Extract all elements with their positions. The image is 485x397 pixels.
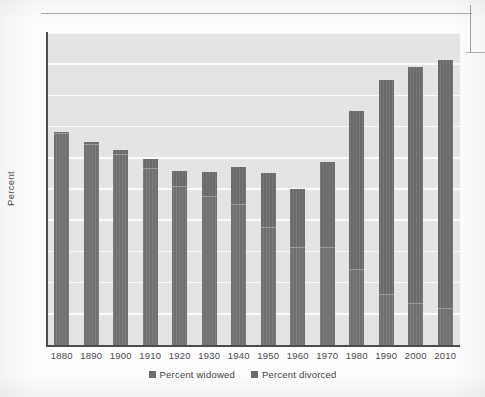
- legend-label: Percent widowed: [160, 369, 235, 380]
- bar-segment-widowed: [438, 309, 453, 345]
- gridline: [47, 251, 460, 253]
- legend-label: Percent divorced: [262, 369, 337, 380]
- bar-group: [290, 33, 305, 345]
- bar-group: [349, 33, 364, 345]
- bar-segment-divorced: [172, 171, 187, 187]
- bar-segment-divorced: [349, 111, 364, 270]
- bar-segment-widowed: [172, 187, 187, 345]
- bar-segment-divorced: [408, 67, 423, 304]
- bar-segment-widowed: [379, 295, 394, 345]
- stacked-bar-chart: Percent 02468101214161820 18801890190019…: [0, 0, 485, 397]
- bar-segment-widowed: [54, 134, 69, 345]
- bar-segment-divorced: [290, 189, 305, 248]
- bar-segment-divider: [349, 269, 364, 270]
- x-tick-label: 1900: [110, 350, 132, 361]
- bar-group: [84, 33, 99, 345]
- y-axis-tick-labels: 02468101214161820: [0, 0, 42, 397]
- gridline: [47, 313, 460, 315]
- bar-segment-divider: [143, 168, 158, 169]
- chart-legend: Percent widowedPercent divorced: [0, 369, 485, 380]
- bar-group: [231, 33, 246, 345]
- gridline: [47, 157, 460, 159]
- x-tick-label: 1920: [169, 350, 191, 361]
- bar-segment-widowed: [202, 197, 217, 345]
- bar-group: [320, 33, 335, 345]
- bar-group: [172, 33, 187, 345]
- bar-segment-divider: [172, 186, 187, 187]
- x-tick-label: 1940: [228, 350, 250, 361]
- gridline: [47, 126, 460, 128]
- legend-swatch-icon: [251, 371, 258, 378]
- x-tick-label: 1980: [346, 350, 368, 361]
- legend-swatch-icon: [149, 371, 156, 378]
- bar-segment-widowed: [113, 155, 128, 345]
- bar-group: [261, 33, 276, 345]
- bar-segment-divorced: [202, 172, 217, 197]
- bar-segment-divider: [84, 144, 99, 145]
- plot-area: [47, 33, 460, 345]
- gridline: [47, 188, 460, 190]
- bar-segment-divorced: [438, 60, 453, 310]
- bar-segment-divorced: [320, 162, 335, 248]
- x-tick-label: 1910: [139, 350, 161, 361]
- bar-segment-widowed: [290, 248, 305, 345]
- bar-segment-divider: [320, 247, 335, 248]
- x-axis-line: [46, 345, 460, 347]
- bar-segment-divider: [290, 247, 305, 248]
- bar-segment-widowed: [349, 270, 364, 345]
- x-axis-tick-labels: 1880189019001910192019301940195019601970…: [47, 350, 460, 366]
- bar-segment-widowed: [231, 205, 246, 345]
- bar-segment-divorced: [261, 173, 276, 228]
- gridline: [47, 95, 460, 97]
- bar-segment-widowed: [408, 304, 423, 345]
- x-tick-label: 1990: [375, 350, 397, 361]
- gridline: [47, 282, 460, 284]
- legend-item: Percent widowed: [149, 369, 235, 380]
- bar-segment-widowed: [143, 169, 158, 345]
- bar-segment-divider: [379, 294, 394, 295]
- bar-segment-widowed: [261, 228, 276, 345]
- bar-segment-divider: [231, 204, 246, 205]
- bar-segment-widowed: [320, 248, 335, 345]
- bar-group: [202, 33, 217, 345]
- bar-segment-divorced: [231, 167, 246, 204]
- gridline: [47, 219, 460, 221]
- x-tick-label: 2010: [434, 350, 456, 361]
- x-tick-label: 1890: [80, 350, 102, 361]
- bar-group: [113, 33, 128, 345]
- bar-segment-divider: [261, 227, 276, 228]
- x-tick-label: 1930: [198, 350, 220, 361]
- bar-segment-divider: [408, 303, 423, 304]
- bar-segment-widowed: [84, 145, 99, 345]
- x-tick-label: 1970: [316, 350, 338, 361]
- x-tick-label: 1880: [51, 350, 73, 361]
- bar-group: [54, 33, 69, 345]
- bar-group: [408, 33, 423, 345]
- bar-segment-divider: [54, 133, 69, 134]
- bar-segment-divorced: [379, 80, 394, 295]
- x-tick-label: 2000: [405, 350, 427, 361]
- page-canvas: Percent 02468101214161820 18801890190019…: [0, 0, 485, 397]
- bar-segment-divider: [202, 196, 217, 197]
- gridline: [47, 33, 460, 34]
- legend-item: Percent divorced: [251, 369, 337, 380]
- x-tick-label: 1960: [287, 350, 309, 361]
- x-tick-label: 1950: [257, 350, 279, 361]
- bar-group: [143, 33, 158, 345]
- bar-segment-divider: [438, 308, 453, 309]
- gridline: [47, 63, 460, 65]
- bar-segment-divider: [113, 154, 128, 155]
- bar-group: [438, 33, 453, 345]
- bar-group: [379, 33, 394, 345]
- y-axis-line: [46, 32, 48, 346]
